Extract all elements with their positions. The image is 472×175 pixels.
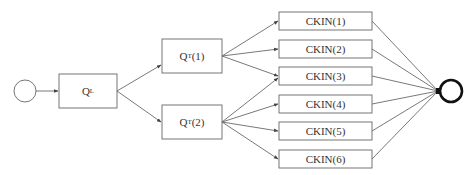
edge-qt2-ckin6 [222, 122, 278, 159]
edge-qt2-ckin5 [222, 122, 278, 131]
node-boxes [59, 12, 372, 168]
end-node [440, 80, 462, 102]
edge-qt1-ckin1 [222, 21, 278, 56]
flow-diagram [0, 0, 472, 175]
node-ckin1-box [279, 12, 372, 30]
edge-qt2-ckin3 [222, 78, 278, 122]
edge-ql-qt1 [117, 65, 161, 91]
node-ql-box [59, 74, 117, 108]
edge-qt2-ckin4 [222, 104, 278, 122]
start-node [14, 80, 36, 102]
node-qt1-box [162, 39, 222, 73]
node-ckin5-box [279, 122, 372, 140]
node-ckin6-box [279, 150, 372, 168]
node-qt2-box [162, 105, 222, 139]
node-ckin2-box [279, 40, 372, 58]
node-ckin3-box [279, 67, 372, 85]
edge-qt1-ckin3 [222, 56, 278, 76]
edge-ql-qt2 [117, 91, 161, 122]
edge-ckin3-end [372, 76, 438, 91]
node-ckin4-box [279, 95, 372, 113]
edge-ckin2-end [372, 49, 438, 91]
edge-ckin1-end [372, 21, 438, 91]
edge-qt1-ckin2 [222, 49, 278, 56]
